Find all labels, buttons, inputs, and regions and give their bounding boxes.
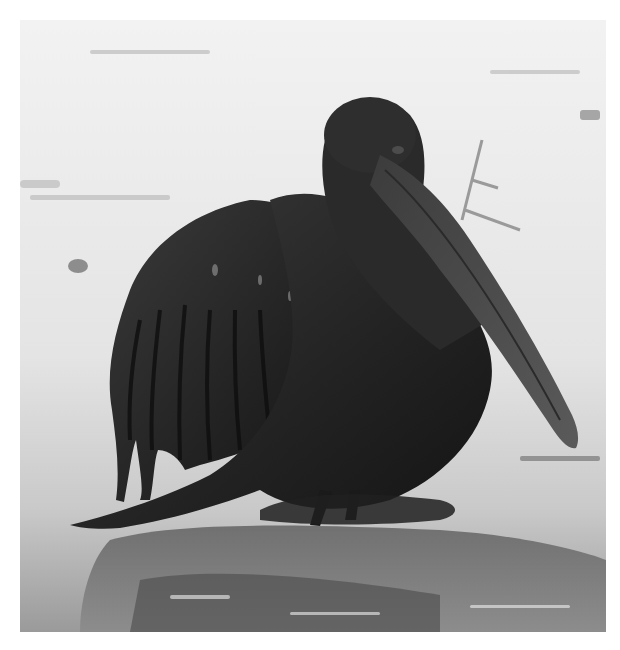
pelican-head [324, 97, 416, 173]
oiled-pelican-photo [20, 20, 606, 632]
pelican-eye [392, 146, 404, 154]
photograph [20, 20, 606, 632]
